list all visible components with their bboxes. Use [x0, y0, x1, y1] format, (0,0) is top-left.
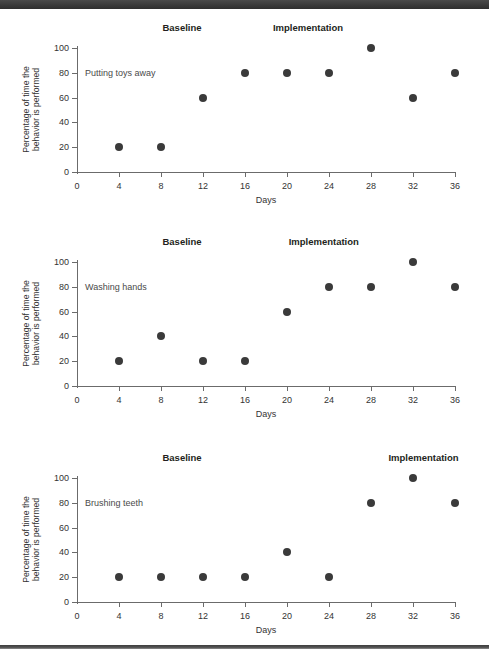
x-tick-label: 8 — [158, 395, 163, 405]
y-tick-label: 20 — [59, 142, 69, 152]
x-axis-title: Days — [77, 409, 455, 419]
x-tick-mark — [203, 386, 204, 391]
y-tick-mark — [72, 552, 77, 553]
x-tick-mark — [371, 172, 372, 177]
data-point — [283, 308, 291, 316]
y-tick-mark — [72, 98, 77, 99]
y-tick-mark — [72, 478, 77, 479]
data-point — [451, 69, 459, 77]
y-tick-label: 40 — [59, 117, 69, 127]
data-point — [367, 499, 375, 507]
x-tick-mark — [329, 386, 330, 391]
data-point — [241, 573, 249, 581]
data-point — [325, 573, 333, 581]
y-tick-label: 100 — [54, 473, 69, 483]
y-tick-label: 60 — [59, 523, 69, 533]
y-tick-mark — [72, 287, 77, 288]
x-tick-label: 24 — [324, 611, 334, 621]
y-axis-title: Percentage of time thebehavior is perfor… — [20, 262, 42, 386]
x-tick-mark — [371, 386, 372, 391]
x-tick-mark — [161, 602, 162, 607]
y-tick-label: 80 — [59, 498, 69, 508]
x-axis-title: Days — [77, 195, 455, 205]
x-tick-mark — [413, 602, 414, 607]
x-tick-mark — [413, 386, 414, 391]
x-tick-mark — [413, 172, 414, 177]
data-point — [409, 94, 417, 102]
x-tick-label: 12 — [198, 181, 208, 191]
x-tick-label: 16 — [240, 395, 250, 405]
y-tick-label: 80 — [59, 68, 69, 78]
data-point — [451, 283, 459, 291]
phase-label-baseline: Baseline — [162, 452, 201, 463]
x-tick-label: 32 — [408, 395, 418, 405]
chart-panel-washing-hands: BaselineImplementationPercentage of time… — [0, 228, 489, 428]
x-tick-label: 24 — [324, 181, 334, 191]
phase-label-implementation: Implementation — [273, 22, 343, 33]
y-axis-title: Percentage of time thebehavior is perfor… — [20, 48, 42, 172]
y-tick-mark — [72, 503, 77, 504]
y-axis-title-line-1: Percentage of time the — [21, 477, 31, 601]
y-tick-mark — [72, 312, 77, 313]
top-banner-strip — [0, 0, 489, 9]
data-point — [367, 283, 375, 291]
y-tick-mark — [72, 122, 77, 123]
data-point — [115, 357, 123, 365]
data-point — [157, 573, 165, 581]
y-tick-mark — [72, 48, 77, 49]
data-point — [157, 332, 165, 340]
y-tick-label: 100 — [54, 43, 69, 53]
x-tick-label: 28 — [366, 611, 376, 621]
x-tick-label: 24 — [324, 395, 334, 405]
series-label: Putting toys away — [85, 68, 156, 78]
data-point — [157, 143, 165, 151]
bottom-divider-rule — [0, 645, 489, 649]
x-tick-mark — [455, 602, 456, 607]
x-tick-mark — [371, 602, 372, 607]
phase-label-baseline: Baseline — [162, 22, 201, 33]
chart-panel-putting-toys-away: BaselineImplementationPercentage of time… — [0, 14, 489, 214]
x-tick-label: 20 — [282, 611, 292, 621]
x-tick-label: 12 — [198, 395, 208, 405]
x-tick-label: 36 — [450, 181, 460, 191]
phase-label-implementation: Implementation — [388, 452, 458, 463]
y-tick-label: 60 — [59, 307, 69, 317]
series-label: Brushing teeth — [85, 498, 143, 508]
data-point — [241, 69, 249, 77]
y-tick-mark — [72, 73, 77, 74]
phase-label-implementation: Implementation — [289, 236, 359, 247]
x-tick-mark — [245, 602, 246, 607]
y-tick-mark — [72, 386, 77, 387]
phase-label-baseline: Baseline — [162, 236, 201, 247]
x-tick-mark — [119, 172, 120, 177]
data-point — [115, 573, 123, 581]
x-tick-label: 28 — [366, 181, 376, 191]
plot-area: 02040608010004812162024283236DaysPutting… — [77, 48, 455, 172]
y-tick-label: 40 — [59, 547, 69, 557]
x-tick-label: 0 — [74, 611, 79, 621]
y-tick-mark — [72, 262, 77, 263]
x-tick-label: 28 — [366, 395, 376, 405]
data-point — [115, 143, 123, 151]
x-axis-title: Days — [77, 625, 455, 635]
y-tick-label: 80 — [59, 282, 69, 292]
x-tick-label: 20 — [282, 395, 292, 405]
x-tick-label: 4 — [116, 395, 121, 405]
x-tick-label: 4 — [116, 611, 121, 621]
x-tick-mark — [287, 602, 288, 607]
x-tick-label: 16 — [240, 611, 250, 621]
y-tick-mark — [72, 172, 77, 173]
y-axis-title-line-2: behavior is performed — [31, 261, 41, 385]
x-tick-label: 0 — [74, 395, 79, 405]
y-axis-title-line-1: Percentage of time the — [21, 261, 31, 385]
x-axis-line — [77, 172, 455, 173]
y-tick-label: 40 — [59, 331, 69, 341]
plot-area: 02040608010004812162024283236DaysWashing… — [77, 262, 455, 386]
y-tick-mark — [72, 336, 77, 337]
y-tick-mark — [72, 361, 77, 362]
data-point — [325, 69, 333, 77]
data-point — [409, 258, 417, 266]
y-axis-title-line-2: behavior is performed — [31, 477, 41, 601]
data-point — [199, 357, 207, 365]
x-tick-label: 32 — [408, 181, 418, 191]
